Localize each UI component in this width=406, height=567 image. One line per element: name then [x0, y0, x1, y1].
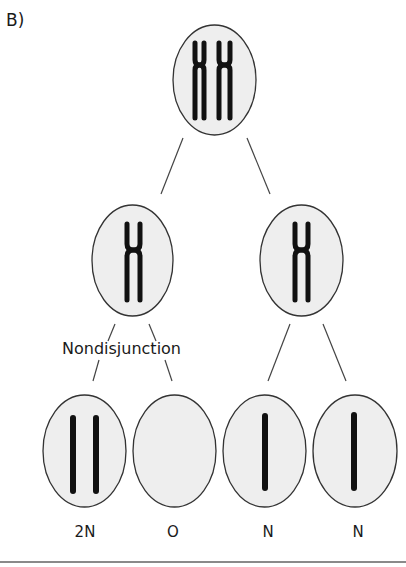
gamete-label-2n: 2N	[55, 523, 115, 541]
daughter-cell-left	[92, 205, 173, 316]
daughter-cell-right	[260, 205, 343, 316]
gamete-2n	[43, 395, 126, 507]
gamete-o	[133, 395, 216, 507]
connector-left-gamete2-lower	[165, 360, 172, 381]
nondisjunction-diagram: B) Nondisjunction 2N O N N	[0, 0, 406, 567]
connector-parent-left	[161, 138, 183, 194]
connector-right-gamete3	[268, 324, 290, 381]
nondisjunction-label: Nondisjunction	[62, 339, 181, 358]
gamete-label-o: O	[143, 523, 203, 541]
gamete-n-2	[313, 395, 397, 507]
bottom-divider	[0, 561, 406, 563]
diagram-graphics	[0, 0, 406, 567]
connector-left-gamete1-lower	[93, 360, 99, 381]
gamete-label-n-1: N	[238, 523, 298, 541]
gamete-n-1	[223, 395, 306, 507]
parent-cell	[173, 25, 256, 135]
connector-right-gamete4	[323, 324, 346, 381]
panel-label: B)	[6, 10, 24, 30]
gamete-label-n-2: N	[328, 523, 388, 541]
connector-parent-right	[247, 138, 270, 194]
